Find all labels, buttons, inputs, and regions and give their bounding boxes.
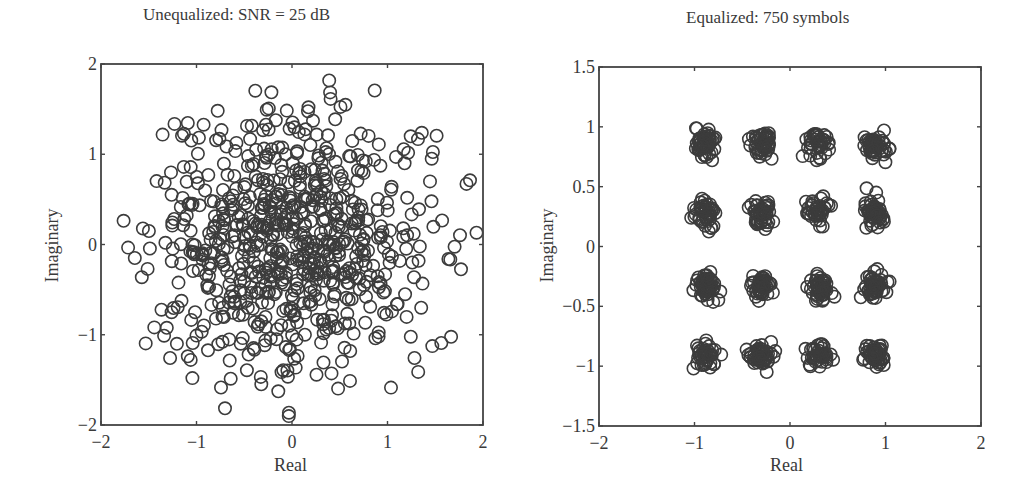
right-chart-panel: Equalized: 750 symbols −2−1012−1.5−1−0.5…: [0, 0, 1027, 504]
y-tick-label: 0: [586, 237, 595, 257]
x-tick-label: 1: [881, 433, 890, 453]
y-tick-label: −0.5: [562, 296, 595, 316]
axes-frame: [599, 67, 981, 426]
y-tick-label: −1: [576, 356, 595, 376]
right-y-axis-label: Imaginary: [537, 209, 558, 283]
y-tick-label: 1: [586, 117, 595, 137]
right-scatter-plot: −2−1012−1.5−1−0.500.511.5: [0, 0, 1027, 504]
right-x-axis-label: Real: [770, 455, 803, 476]
x-tick-label: 0: [786, 433, 795, 453]
y-tick-label: 1.5: [573, 57, 596, 77]
x-tick-label: 2: [977, 433, 986, 453]
data-point: [828, 291, 840, 303]
y-tick-label: −1.5: [562, 416, 595, 436]
x-tick-label: −1: [685, 433, 704, 453]
x-tick-label: −2: [589, 433, 608, 453]
scatter-points: [685, 122, 896, 378]
y-tick-label: 0.5: [573, 177, 596, 197]
